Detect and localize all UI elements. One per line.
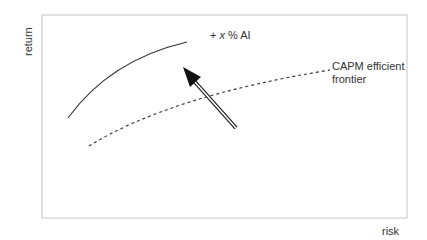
shift-arrow <box>183 67 236 128</box>
frontier-label: CAPM efficient frontier <box>332 60 408 85</box>
y-axis-label: return <box>22 27 34 56</box>
ai-annotation: + x % AI <box>210 29 251 41</box>
capm-efficient-frontier-curve <box>89 70 330 146</box>
ai-enhanced-frontier-curve <box>68 42 187 118</box>
x-axis-label: risk <box>382 225 400 237</box>
diagram-canvas: return risk + x % AI CAPM efficient fron… <box>0 0 427 240</box>
